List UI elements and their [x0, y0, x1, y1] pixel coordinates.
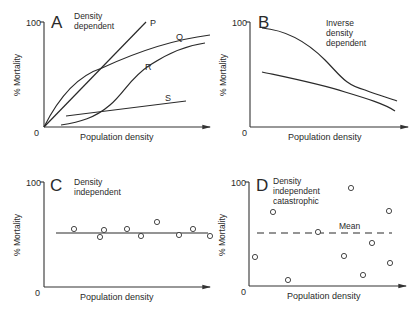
curve-q [44, 35, 210, 127]
y-axis-label: % Mortality [218, 53, 228, 96]
panel-title-line2: density [326, 28, 354, 38]
panel-title-line3: dependent [326, 38, 367, 48]
curve-s [66, 101, 186, 116]
x-axis-label: Population density [288, 132, 362, 142]
panel-d: 100 0 D Density independent catastrophic… [217, 176, 406, 301]
curve-label-q: Q [176, 32, 183, 42]
panel-title-line3: catastrophic [273, 196, 320, 206]
panel-title-line1: Density [74, 177, 103, 187]
curve-label-p: P [150, 18, 156, 28]
curve-lower [262, 72, 395, 111]
panel-title-line1: Density [273, 176, 302, 186]
panel-title-line2: independent [74, 187, 121, 197]
panel-title-line1: Density [74, 11, 103, 21]
ytick-100: 100 [231, 178, 246, 188]
ytick-100: 100 [26, 178, 41, 188]
ytick-100: 100 [232, 18, 247, 28]
panel-a: 100 0 A Density dependent % Mortality Po… [12, 11, 210, 142]
panel-letter: A [51, 13, 63, 32]
x-axis-label: Population density [80, 292, 154, 302]
curve-p [44, 22, 146, 127]
mortality-figure: 100 0 A Density dependent % Mortality Po… [0, 0, 417, 309]
panel-letter: D [256, 176, 268, 195]
panel-b: 100 0 B Inverse density dependent % Mort… [218, 13, 408, 142]
ytick-0: 0 [241, 287, 246, 297]
ytick-0: 0 [242, 128, 247, 138]
ytick-0: 0 [34, 128, 39, 138]
panel-letter: C [50, 176, 62, 195]
ytick-100: 100 [26, 18, 41, 28]
panel-title-line2: dependent [74, 21, 115, 31]
mean-label: Mean [339, 221, 361, 231]
y-axis-label: % Mortality [217, 213, 227, 256]
panel-title-line2: independent [273, 186, 320, 196]
panel-title-line1: Inverse [326, 18, 354, 28]
ytick-0: 0 [35, 288, 40, 298]
x-axis-label: Population density [80, 132, 154, 142]
y-axis-label: % Mortality [12, 53, 22, 96]
data-points [71, 219, 212, 239]
y-axis-label: % Mortality [12, 213, 22, 256]
curve-label-r: R [145, 62, 152, 72]
panel-c: 100 0 C Density independent % Mortality … [12, 176, 213, 302]
x-axis-label: Population density [287, 291, 361, 301]
curve-label-s: S [165, 93, 171, 103]
